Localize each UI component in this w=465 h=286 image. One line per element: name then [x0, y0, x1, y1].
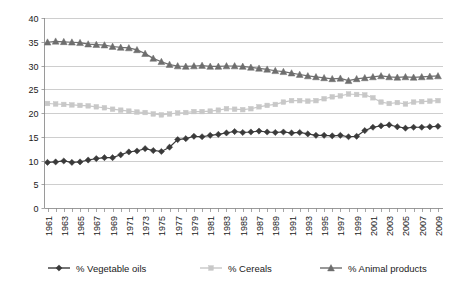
data-point-marker: [402, 125, 408, 131]
legend-label[interactable]: % Vegetable oils: [76, 263, 146, 274]
data-point-marker: [94, 105, 99, 110]
legend-label[interactable]: % Animal products: [348, 263, 427, 274]
data-point-marker: [101, 155, 107, 161]
data-point-marker: [329, 133, 335, 139]
data-point-marker: [249, 106, 254, 111]
data-point-marker: [209, 266, 214, 271]
data-point-marker: [110, 107, 115, 112]
data-point-marker: [264, 129, 270, 135]
data-point-marker: [371, 96, 376, 101]
data-point-marker: [240, 107, 245, 112]
data-point-marker: [362, 93, 367, 98]
data-point-marker: [379, 100, 384, 105]
data-point-marker: [78, 103, 83, 108]
x-axis-tick-label: 1971: [125, 216, 135, 236]
data-point-marker: [306, 99, 311, 104]
x-axis-tick-label: 1969: [109, 216, 119, 236]
data-point-marker: [436, 98, 441, 103]
data-point-marker: [61, 102, 66, 107]
data-point-marker: [427, 124, 433, 130]
x-axis-tick-label: 1977: [174, 216, 184, 236]
x-axis-tick-label: 1997: [336, 216, 346, 236]
data-point-marker: [158, 148, 164, 154]
x-axis-tick-label: 1973: [141, 216, 151, 236]
data-point-marker: [297, 98, 302, 103]
data-point-marker: [257, 105, 262, 110]
data-point-marker: [387, 101, 392, 106]
data-point-marker: [395, 100, 400, 105]
x-axis-tick-labels: 1961196319651967196919711973197519771979…: [44, 216, 444, 236]
data-point-marker: [428, 99, 433, 104]
data-point-marker: [330, 95, 335, 100]
x-axis-tick-label: 1993: [304, 216, 314, 236]
x-axis-tick-label: 1985: [239, 216, 249, 236]
y-axis-tick-label: 25: [28, 85, 38, 95]
chart-container: 0510152025303540 19611963196519671969197…: [0, 0, 465, 286]
data-point-marker: [248, 129, 254, 135]
y-axis-tick-label: 15: [28, 133, 38, 143]
data-point-marker: [191, 133, 197, 139]
data-point-marker: [135, 110, 140, 115]
data-point-marker: [85, 157, 91, 163]
y-axis-tick-label: 40: [28, 14, 38, 24]
data-point-marker: [86, 104, 91, 109]
x-axis-tick-label: 1981: [206, 216, 216, 236]
legend-label[interactable]: % Cereals: [228, 263, 272, 274]
data-point-marker: [354, 92, 359, 97]
line-chart: 0510152025303540 19611963196519671969197…: [0, 0, 465, 286]
x-axis-tick-label: 1991: [288, 216, 298, 236]
data-point-marker: [127, 109, 132, 114]
x-axis-tick-label: 2009: [434, 216, 444, 236]
y-axis-tick-label: 20: [28, 109, 38, 119]
data-point-marker: [223, 130, 229, 136]
x-axis-tick-label: 2001: [369, 216, 379, 236]
data-point-marker: [167, 112, 172, 117]
data-point-marker: [184, 110, 189, 115]
data-point-marker: [109, 155, 115, 161]
data-point-marker: [314, 98, 319, 103]
data-point-marker: [322, 96, 327, 101]
data-point-marker: [44, 159, 50, 165]
data-point-marker: [134, 148, 140, 154]
x-axis-tick-label: 1999: [353, 216, 363, 236]
y-axis-tick-label: 10: [28, 157, 38, 167]
data-point-marker: [102, 105, 107, 110]
data-point-marker: [126, 149, 132, 155]
y-axis-tick-labels: 0510152025303540: [28, 14, 38, 214]
x-axis-tick-label: 1963: [60, 216, 70, 236]
data-point-marker: [142, 50, 149, 56]
x-axis-tick-label: 1967: [92, 216, 102, 236]
data-point-marker: [183, 136, 189, 142]
data-point-marker: [288, 130, 294, 136]
data-point-marker: [45, 101, 50, 106]
data-point-marker: [159, 113, 164, 118]
data-point-marker: [215, 131, 221, 137]
data-point-marker: [297, 129, 303, 135]
data-point-marker: [53, 159, 59, 165]
data-point-marker: [240, 129, 246, 135]
data-series-group: [44, 38, 441, 166]
data-point-marker: [305, 131, 311, 137]
data-point-marker: [410, 124, 416, 130]
chart-legend: % Vegetable oils% Cereals% Animal produc…: [48, 263, 427, 274]
data-point-marker: [77, 159, 83, 165]
x-axis-tick-label: 1975: [157, 216, 167, 236]
series-vegetable-oils: [44, 122, 441, 166]
data-point-marker: [403, 102, 408, 107]
x-axis-tick-label: 1979: [190, 216, 200, 236]
data-point-marker: [419, 124, 425, 130]
data-point-marker: [338, 94, 343, 99]
data-point-marker: [370, 124, 376, 130]
data-point-marker: [280, 129, 286, 135]
data-point-marker: [175, 111, 180, 116]
data-point-marker: [199, 134, 205, 140]
x-axis-tick-label: 1961: [44, 216, 54, 236]
data-point-marker: [394, 124, 400, 130]
data-point-marker: [69, 159, 75, 165]
data-point-marker: [118, 152, 124, 158]
data-point-marker: [150, 147, 156, 153]
data-point-marker: [289, 98, 294, 103]
y-axis-tick-label: 30: [28, 62, 38, 72]
data-point-marker: [142, 146, 148, 152]
data-point-marker: [200, 109, 205, 114]
